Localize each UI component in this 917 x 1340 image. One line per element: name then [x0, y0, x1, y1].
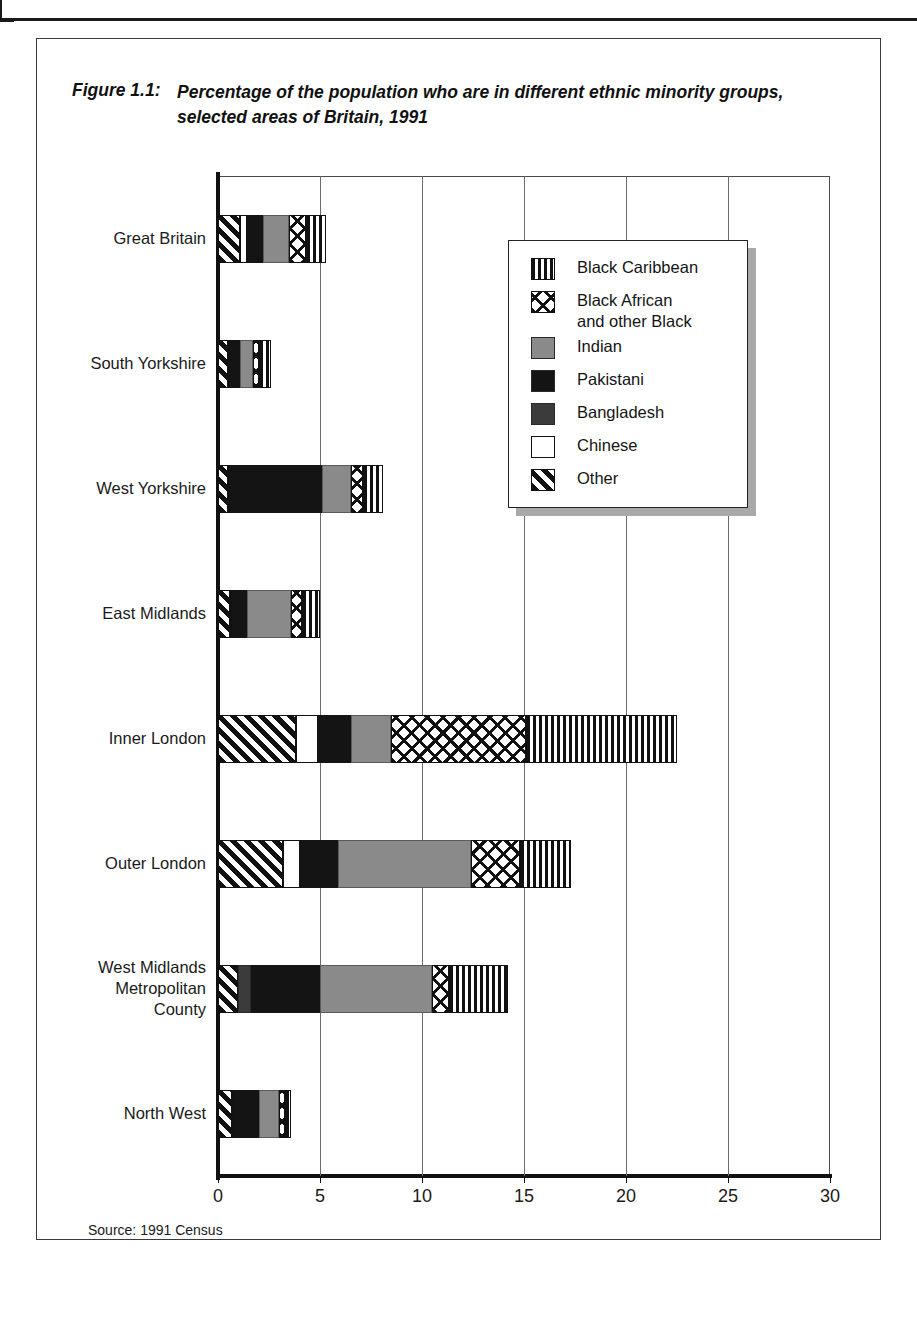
x-tick-label: 15: [494, 1186, 554, 1207]
bar-segment: [259, 1090, 279, 1138]
bar-segment: [338, 840, 471, 888]
x-tick-label: 5: [290, 1186, 350, 1207]
legend-item-other[interactable]: Other: [531, 468, 618, 491]
bar-segment: [230, 340, 240, 388]
chart-legend: Black CaribbeanBlack African and other B…: [508, 240, 748, 508]
bar-segment: [218, 715, 296, 763]
bar-segment: [218, 590, 230, 638]
page-corner-inner: [2, 0, 14, 18]
bar-segment: [471, 840, 520, 888]
bar-segment: [322, 465, 351, 513]
x-tick: [524, 1176, 525, 1183]
bar-segment: [526, 715, 677, 763]
bar-segment: [234, 1090, 258, 1138]
bar-segment: [263, 215, 290, 263]
x-tick: [422, 1176, 423, 1183]
page-top-rule: [0, 18, 917, 21]
bar-segment: [230, 465, 322, 513]
bar-segment: [306, 215, 326, 263]
legend-label-chinese: Chinese: [577, 435, 638, 456]
legend-label-black_african: Black African and other Black: [577, 290, 692, 332]
legend-swatch-pakistani: [531, 370, 555, 392]
legend-label-black_caribbean: Black Caribbean: [577, 257, 698, 278]
legend-swatch-chinese: [531, 436, 555, 458]
bar-segment: [351, 465, 363, 513]
bar-segment: [302, 590, 320, 638]
bar-segment: [218, 965, 238, 1013]
x-tick: [626, 1176, 627, 1183]
figure-number: Figure 1.1:: [72, 80, 177, 101]
bar-segment: [449, 965, 508, 1013]
legend-swatch-indian: [531, 337, 555, 359]
gridline: [320, 176, 321, 1176]
x-tick: [830, 1176, 831, 1183]
gridline: [422, 176, 423, 1176]
legend-label-other: Other: [577, 468, 618, 489]
bar-segment: [300, 840, 339, 888]
legend-swatch-black_african: [531, 291, 555, 313]
legend-item-indian[interactable]: Indian: [531, 336, 622, 359]
legend-label-bangladesh: Bangladesh: [577, 402, 664, 423]
legend-swatch-other: [531, 469, 555, 491]
category-label: Outer London: [38, 853, 206, 874]
legend-item-pakistani[interactable]: Pakistani: [531, 369, 644, 392]
legend-swatch-black_caribbean: [531, 258, 555, 280]
category-label: East Midlands: [38, 603, 206, 624]
bar-segment: [247, 590, 292, 638]
category-label: West Midlands Metropolitan County: [38, 957, 206, 1020]
bar-segment: [391, 715, 526, 763]
legend-item-black_caribbean[interactable]: Black Caribbean: [531, 257, 698, 280]
bar-segment: [218, 215, 240, 263]
category-label: North West: [38, 1103, 206, 1124]
category-label: Great Britain: [38, 228, 206, 249]
x-tick-label: 25: [698, 1186, 758, 1207]
bar-segment: [218, 465, 228, 513]
category-label: Inner London: [38, 728, 206, 749]
bar-segment: [296, 715, 318, 763]
legend-item-black_african[interactable]: Black African and other Black: [531, 290, 692, 332]
bar-segment: [291, 590, 301, 638]
bar-segment: [218, 1090, 232, 1138]
bar-segment: [259, 340, 271, 388]
x-tick: [218, 1176, 219, 1183]
bar-segment: [289, 215, 305, 263]
bar-segment: [251, 965, 320, 1013]
legend-label-pakistani: Pakistani: [577, 369, 644, 390]
y-axis-line: [216, 172, 220, 1180]
x-tick: [320, 1176, 321, 1183]
legend-item-chinese[interactable]: Chinese: [531, 435, 638, 458]
figure-title: Figure 1.1:Percentage of the population …: [72, 80, 862, 130]
bar-segment: [247, 215, 263, 263]
x-tick-label: 20: [596, 1186, 656, 1207]
category-label: South Yorkshire: [38, 353, 206, 374]
bar-segment: [238, 965, 250, 1013]
bar-segment: [351, 715, 392, 763]
legend-label-indian: Indian: [577, 336, 622, 357]
x-tick-label: 30: [800, 1186, 860, 1207]
bar-segment: [432, 965, 448, 1013]
bar-segment: [520, 840, 571, 888]
x-tick-label: 10: [392, 1186, 452, 1207]
bar-segment: [283, 840, 299, 888]
legend-swatch-bangladesh: [531, 403, 555, 425]
bar-segment: [232, 590, 246, 638]
category-label: West Yorkshire: [38, 478, 206, 499]
figure-source: Source: 1991 Census: [88, 1222, 223, 1238]
bar-segment: [240, 340, 252, 388]
bar-segment: [218, 340, 228, 388]
bar-segment: [318, 715, 351, 763]
figure-title-text: Percentage of the population who are in …: [177, 80, 837, 130]
bar-segment: [218, 840, 283, 888]
x-tick: [728, 1176, 729, 1183]
bar-segment: [363, 465, 383, 513]
bar-segment: [320, 965, 432, 1013]
legend-item-bangladesh[interactable]: Bangladesh: [531, 402, 664, 425]
bar-segment: [285, 1090, 291, 1138]
x-tick-label: 0: [188, 1186, 248, 1207]
